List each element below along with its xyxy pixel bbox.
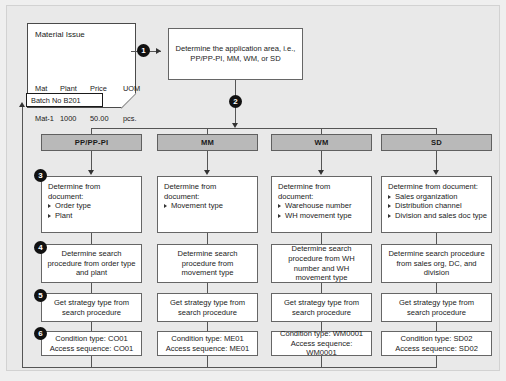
table-row: Mat-1 1000 50.00 pcs. — [35, 114, 147, 124]
row3-list-col3: Warehouse number WH movement type — [278, 201, 371, 220]
condition-type-col4: Condition type: SD02 — [387, 334, 486, 344]
row6-inner-col2: Condition type: ME01 Access sequence: ME… — [158, 334, 257, 353]
row5-text-col3: Get strategy type from search procedure — [272, 298, 371, 317]
row5-box-col3: Get strategy type from search procedure — [271, 293, 372, 322]
connector-row4-row5-col4 — [436, 283, 437, 293]
row6-box-col1: Condition type: CO01 Access sequence: CO… — [41, 331, 142, 356]
row3-box-col3: Determine from document: Warehouse numbe… — [271, 176, 372, 233]
step-marker-1: 1 — [137, 44, 150, 57]
connector-hdr-row3-col3 — [321, 151, 322, 171]
row5-box-col4: Get strategy type from search procedure — [381, 293, 492, 322]
list-item: Plant — [48, 211, 141, 221]
row4-box-col1: Determine search procedure from order ty… — [41, 244, 142, 283]
application-area-box: Determine the application area, i.e., PP… — [168, 28, 303, 80]
row3-list-col1: Order type Plant — [48, 201, 141, 220]
row4-text-col1: Determine search procedure from order ty… — [42, 249, 141, 278]
row4-text-col2: Determine search procedure from movement… — [158, 249, 257, 278]
access-sequence-col4: Access sequence: SD02 — [387, 344, 486, 354]
list-item: Sales organization — [388, 192, 491, 202]
list-item: WH movement type — [278, 211, 371, 221]
connector-row3-row4-col2 — [207, 233, 208, 244]
row5-box-col2: Get strategy type from search procedure — [157, 293, 258, 322]
row3-box-col4: Determine from document: Sales organizat… — [381, 176, 492, 233]
row5-text-col4: Get strategy type from search procedure — [382, 298, 491, 317]
arrow-to-app-box — [156, 48, 161, 54]
connector-row3-row4-col4 — [436, 233, 437, 244]
row3-box-col1: Determine from document: Order type Plan… — [41, 176, 142, 233]
return-bus — [22, 367, 437, 368]
row4-box-col3: Determine search procedure from WH numbe… — [271, 244, 372, 283]
cell-mat: Mat-1 — [35, 114, 60, 124]
row3-lead-col2: Determine from document: — [158, 177, 257, 201]
access-sequence-col3: Access sequence: WM0001 — [277, 339, 366, 358]
list-item: Warehouse number — [278, 201, 371, 211]
step-marker-3: 3 — [34, 169, 47, 182]
condition-type-col1: Condition type: CO01 — [47, 334, 136, 344]
access-sequence-col2: Access sequence: ME01 — [163, 344, 252, 354]
document-title: Material Issue — [35, 30, 85, 39]
step-marker-6: 6 — [34, 327, 47, 340]
row6-inner-col3: Condition type: WM0001 Access sequence: … — [272, 329, 371, 358]
row3-list-col4: Sales organization Distribution channel … — [388, 192, 491, 221]
cell-price: 50.00 — [90, 114, 123, 124]
row4-text-col4: Determine search procedure from sales or… — [382, 249, 491, 278]
connector-hdr-row3-col4 — [436, 151, 437, 171]
row3-list-col2: Movement type — [164, 201, 257, 211]
application-area-text: Determine the application area, i.e., PP… — [169, 44, 302, 63]
connector-hdr-row3-col2 — [207, 151, 208, 171]
column-header-pp-pp-pi: PP/PP-PI — [41, 134, 142, 151]
access-sequence-col1: Access sequence: CO01 — [47, 344, 136, 354]
row3-lead-col4: Determine from document: — [382, 177, 491, 192]
arrow-hdr-row3-col4 — [433, 170, 439, 175]
connector-row5-row6-col2 — [207, 322, 208, 331]
distribution-bus — [91, 128, 436, 129]
list-item: Distribution channel — [388, 201, 491, 211]
arrow-hdr-row3-col3 — [318, 170, 324, 175]
column-header-mm: MM — [157, 134, 258, 151]
batch-number-box: Batch No B201 — [26, 93, 103, 107]
row4-box-col4: Determine search procedure from sales or… — [381, 244, 492, 283]
arrow-return-to-batch — [19, 102, 25, 107]
diagram-canvas: Material Issue Mat Plant Price UOM Mat-1… — [0, 0, 506, 381]
row3-lead-col1: Determine from document: — [42, 177, 141, 201]
connector-row4-row5-col2 — [207, 283, 208, 293]
condition-type-col3: Condition type: WM0001 — [277, 329, 366, 339]
row6-box-col3: Condition type: WM0001 Access sequence: … — [271, 331, 372, 356]
condition-type-col2: Condition type: ME01 — [163, 334, 252, 344]
cell-plant: 1000 — [60, 114, 90, 124]
arrow-hdr-row3-col1 — [88, 170, 94, 175]
diagram-panel: Material Issue Mat Plant Price UOM Mat-1… — [6, 5, 500, 371]
row3-lead-col3: Determine from document: — [272, 177, 371, 201]
connector-row5-row6-col1 — [91, 322, 92, 331]
step-marker-5: 5 — [34, 289, 47, 302]
step-marker-2: 2 — [229, 95, 242, 108]
cell-uom: pcs. — [123, 114, 147, 124]
row6-box-col4: Condition type: SD02 Access sequence: SD… — [381, 331, 492, 356]
row5-box-col1: Get strategy type from search procedure — [41, 293, 142, 322]
list-item: Order type — [48, 201, 141, 211]
row4-text-col3: Determine search procedure from WH numbe… — [272, 244, 371, 282]
list-item: Movement type — [164, 201, 257, 211]
arrow-hdr-row3-col2 — [204, 170, 210, 175]
connector-row3-row4-col1 — [91, 233, 92, 244]
column-header-sd: SD — [381, 134, 492, 151]
row5-text-col1: Get strategy type from search procedure — [42, 298, 141, 317]
connector-row3-row4-col3 — [321, 233, 322, 244]
row3-box-col2: Determine from document: Movement type — [157, 176, 258, 233]
return-riser — [22, 106, 23, 367]
connector-hdr-row3-col1 — [91, 151, 92, 171]
connector-row5-row6-col4 — [436, 322, 437, 331]
row6-inner-col4: Condition type: SD02 Access sequence: SD… — [382, 334, 491, 353]
row4-box-col2: Determine search procedure from movement… — [157, 244, 258, 283]
row5-text-col2: Get strategy type from search procedure — [158, 298, 257, 317]
column-header-wm: WM — [271, 134, 372, 151]
row6-box-col2: Condition type: ME01 Access sequence: ME… — [157, 331, 258, 356]
connector-row4-row5-col1 — [91, 283, 92, 293]
connector-row4-row5-col3 — [321, 283, 322, 293]
step-marker-4: 4 — [34, 241, 47, 254]
row6-inner-col1: Condition type: CO01 Access sequence: CO… — [42, 334, 141, 353]
list-item: Division and sales doc type — [388, 211, 491, 221]
